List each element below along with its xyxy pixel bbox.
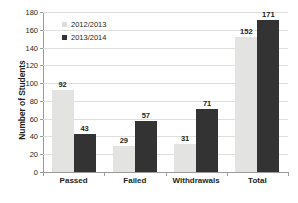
bar-chart: Number of Students 020406080100120140160… xyxy=(0,0,298,203)
legend-label: 2013/2014 xyxy=(71,33,106,42)
x-axis-tick xyxy=(288,172,289,176)
bar[interactable]: 43 xyxy=(74,134,96,172)
x-axis-category-label: Passed xyxy=(60,176,88,185)
bar[interactable]: 29 xyxy=(113,146,135,172)
bar-value-label: 29 xyxy=(120,136,128,145)
y-axis-tick-label: 0 xyxy=(34,168,38,177)
y-axis-tick-label: 40 xyxy=(30,132,38,141)
y-axis-tick-label: 120 xyxy=(25,61,38,70)
y-axis-tick-label: 60 xyxy=(30,114,38,123)
bar-value-label: 57 xyxy=(142,111,150,120)
x-axis-category-label: Total xyxy=(248,176,267,185)
legend-swatch-icon xyxy=(62,35,67,40)
bar-group: 2957 xyxy=(113,12,157,172)
bar-value-label: 71 xyxy=(203,99,211,108)
y-axis-tick-label: 100 xyxy=(25,79,38,88)
bar[interactable]: 171 xyxy=(257,20,279,172)
y-axis-title: Number of Students xyxy=(17,35,27,165)
y-axis-tick-label: 180 xyxy=(25,8,38,17)
bar[interactable]: 57 xyxy=(135,121,157,172)
bar-value-label: 171 xyxy=(262,10,275,19)
bar[interactable]: 31 xyxy=(174,144,196,172)
bar[interactable]: 71 xyxy=(196,109,218,172)
legend-item-2012-2013: 2012/2013 xyxy=(62,18,106,31)
bar-value-label: 152 xyxy=(240,27,253,36)
bar-value-label: 43 xyxy=(80,124,88,133)
bar[interactable]: 92 xyxy=(52,90,74,172)
bar-group: 152171 xyxy=(235,12,279,172)
legend-swatch-icon xyxy=(62,22,67,27)
legend-item-2013-2014: 2013/2014 xyxy=(62,31,106,44)
y-axis-tick-label: 80 xyxy=(30,96,38,105)
bar-value-label: 92 xyxy=(58,80,66,89)
x-axis-category-labels: PassedFailedWithdrawalsTotal xyxy=(43,176,288,194)
y-axis-tick-label: 140 xyxy=(25,43,38,52)
legend-label: 2012/2013 xyxy=(71,20,106,29)
x-axis-category-label: Failed xyxy=(123,176,146,185)
y-axis-tick-label: 160 xyxy=(25,25,38,34)
bar-group: 3171 xyxy=(174,12,218,172)
y-axis-tick-label: 20 xyxy=(30,150,38,159)
x-axis-category-label: Withdrawals xyxy=(173,176,220,185)
bar-value-label: 31 xyxy=(181,134,189,143)
legend: 2012/2013 2013/2014 xyxy=(62,18,106,44)
bar[interactable]: 152 xyxy=(235,37,257,172)
